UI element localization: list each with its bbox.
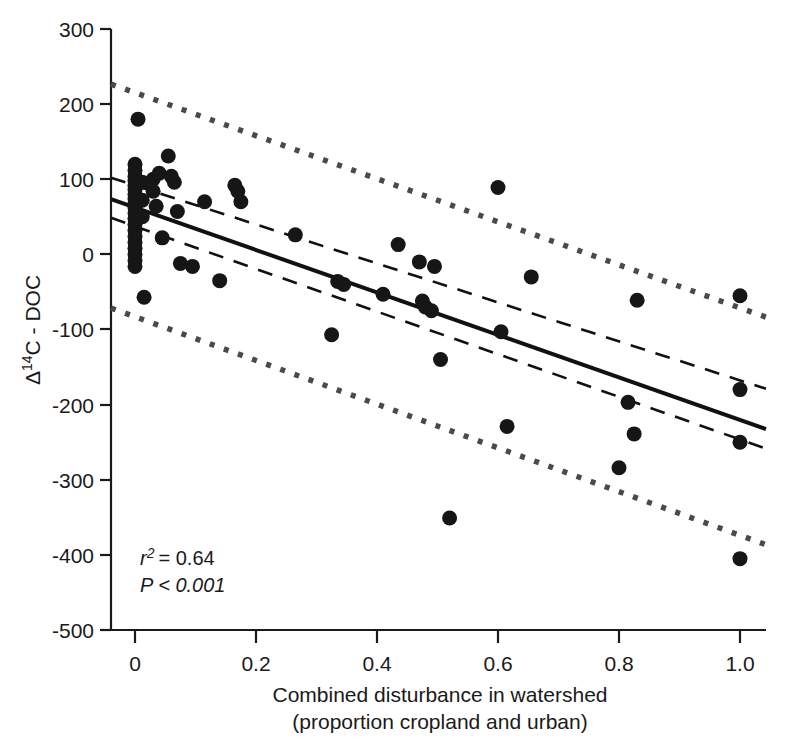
data-point [524,269,539,284]
svg-text:Δ14C - DOC: Δ14C - DOC [19,275,44,385]
data-point [424,303,439,318]
x-tick-label: 0.8 [604,652,633,675]
data-point [128,259,143,274]
confidence-band-lower [111,218,766,449]
data-point [149,199,164,214]
data-point [212,273,227,288]
data-point [630,293,645,308]
data-point [146,184,161,199]
data-point [161,148,176,163]
data-point [494,324,509,339]
data-point [197,194,212,209]
data-point [167,175,182,190]
y-tick-label: -200 [52,394,94,417]
x-tick-label: 0.4 [362,652,392,675]
y-tick-label: -100 [52,318,94,341]
data-point [376,287,391,302]
y-tick-label: 200 [59,93,94,116]
data-point [233,194,248,209]
data-points-layer [128,112,748,566]
data-point [627,426,642,441]
data-point [185,259,200,274]
x-tick-label: 0.2 [241,652,270,675]
p-value-annotation: P < 0.001 [140,574,225,596]
r-squared-superscript: 2 [146,545,155,561]
x-axis-title: Combined disturbance in watershed [272,683,607,706]
x-axis-tick-labels: 0 0.2 0.4 0.6 0.8 1.0 [129,652,754,675]
data-point [412,254,427,269]
y-axis-title-superscript: 14 [19,355,35,371]
data-point [170,204,185,219]
y-axis-ticks [100,29,111,630]
data-point [500,419,515,434]
y-tick-label: 0 [82,243,94,266]
data-point [733,382,748,397]
regression-line [111,199,766,429]
data-point [288,227,303,242]
data-point [733,435,748,450]
y-tick-label: -500 [52,619,94,642]
x-axis-title-line2: (proportion cropland and urban) [292,710,587,733]
data-point [324,327,339,342]
y-axis-tick-labels: 300 200 100 0 -100 -200 -300 -400 -500 [52,18,94,642]
y-tick-label: 100 [59,168,94,191]
y-tick-label: 300 [59,18,94,41]
prediction-band-lower [111,308,766,545]
data-point [155,230,170,245]
scatter-plot: 300 200 100 0 -100 -200 -300 -400 -500 0… [0,0,786,742]
data-point [135,209,150,224]
y-tick-label: -300 [52,469,94,492]
r-squared-value: = 0.64 [158,547,214,569]
data-point [131,112,146,127]
axis-frame [111,29,766,630]
y-axis-title-rest: C - DOC [21,275,44,356]
data-point [433,352,448,367]
figure-container: 300 200 100 0 -100 -200 -300 -400 -500 0… [0,0,786,742]
y-axis-title: Δ14C - DOC [19,275,44,385]
data-point [612,460,627,475]
data-point [442,511,457,526]
r-squared-annotation: r2= 0.64 [140,545,215,569]
x-tick-label: 0.6 [483,652,512,675]
data-point [733,551,748,566]
data-point [621,395,636,410]
data-point [391,237,406,252]
x-tick-label: 0 [129,652,141,675]
data-point [491,180,506,195]
data-point [137,290,152,305]
x-tick-label: 1.0 [725,652,754,675]
data-point [427,259,442,274]
y-tick-label: -400 [52,544,94,567]
y-axis-title-delta: Δ [21,371,44,385]
x-axis-ticks [135,630,740,643]
data-point [336,277,351,292]
data-point [733,288,748,303]
